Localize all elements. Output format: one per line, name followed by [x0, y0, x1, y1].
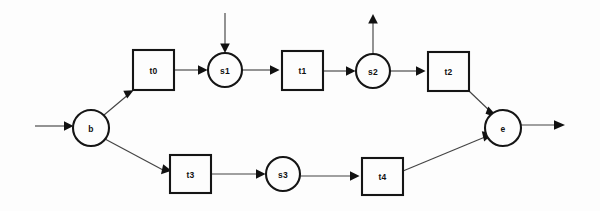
place-e[interactable]: e	[485, 110, 521, 146]
transition-t1-label: t1	[299, 66, 307, 76]
transition-t4[interactable]: t4	[362, 158, 403, 195]
place-s3-label: s3	[278, 170, 288, 180]
place-s1-label: s1	[220, 66, 230, 76]
nodes-layer: b t0 s1 t1 s2	[73, 50, 521, 195]
arc-t0-to-s1	[174, 65, 208, 75]
arc-t4-to-e	[403, 131, 493, 171]
transition-t2[interactable]: t2	[428, 52, 469, 91]
petri-net-canvas: b t0 s1 t1 s2	[0, 0, 600, 211]
place-s1[interactable]: s1	[208, 53, 242, 87]
place-s3[interactable]: s3	[266, 157, 300, 191]
arc-b-to-t0	[104, 90, 134, 115]
arc-source-to-s1	[220, 13, 230, 53]
place-b-label: b	[88, 124, 93, 134]
arc-s2-to-t2	[390, 66, 426, 76]
arcs-layer	[35, 13, 565, 181]
arc-e-to-sink	[521, 120, 565, 130]
transition-t1[interactable]: t1	[282, 51, 323, 90]
place-s2[interactable]: s2	[356, 54, 390, 88]
arc-source-to-b	[35, 121, 74, 131]
petri-net-diagram: b t0 s1 t1 s2	[0, 0, 600, 211]
arc-s1-to-t1	[242, 65, 280, 75]
transition-t4-label: t4	[379, 172, 387, 182]
arc-b-to-t3	[105, 139, 172, 174]
arc-t1-to-s2	[323, 66, 356, 76]
transition-t0[interactable]: t0	[133, 50, 174, 90]
transition-t0-label: t0	[150, 66, 158, 76]
arc-t3-to-s3	[211, 169, 266, 179]
place-s2-label: s2	[368, 67, 378, 77]
place-b[interactable]: b	[73, 110, 109, 146]
place-e-label: e	[501, 124, 506, 134]
transition-t3-label: t3	[187, 170, 195, 180]
transition-t3[interactable]: t3	[170, 155, 211, 193]
arc-s2-to-sink	[368, 14, 378, 53]
transition-t2-label: t2	[445, 67, 453, 77]
arc-s3-to-t4	[300, 171, 360, 181]
